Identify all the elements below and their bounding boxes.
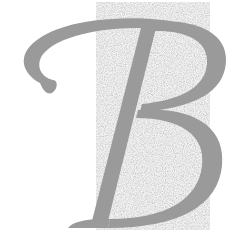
letter-b-graphic <box>0 0 234 239</box>
decorative-letter-b <box>0 0 234 239</box>
